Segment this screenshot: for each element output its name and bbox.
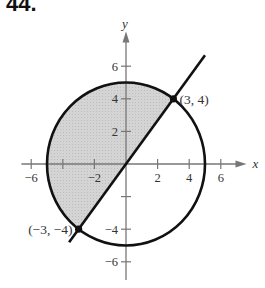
coordinate-plane: xy−6−2246642−4−6 (3, 4)(−3, −4) (0, 0, 265, 288)
problem-number: 44. (6, 0, 37, 17)
y-tick-label: 2 (112, 125, 118, 139)
x-axis-arrow-icon (236, 161, 247, 168)
shaded-region (47, 83, 173, 230)
intersection-point (170, 95, 177, 102)
graph-figure: 44. xy−6−2246642−4−6 (3, 4)(−3, −4) (0, 0, 265, 288)
point-label: (−3, −4) (28, 222, 72, 237)
point-label: (3, 4) (179, 92, 208, 107)
x-tick-label: −2 (88, 171, 101, 185)
y-axis-arrow-icon (123, 32, 130, 43)
y-tick-label: 6 (112, 60, 118, 74)
y-tick-label: −4 (105, 223, 119, 237)
y-tick-label: −6 (105, 255, 118, 269)
x-tick-label: 4 (186, 171, 193, 185)
x-tick-label: 2 (154, 171, 160, 185)
x-tick-label: −6 (25, 171, 38, 185)
intersection-point (75, 226, 82, 233)
x-tick-label: 6 (218, 171, 224, 185)
x-axis-label: x (252, 156, 259, 171)
shaded-area (47, 83, 173, 230)
y-axis-label: y (120, 16, 128, 31)
y-tick-label: 4 (112, 92, 119, 106)
